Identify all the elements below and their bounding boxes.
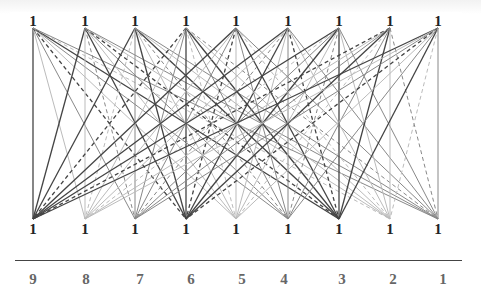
axis-line	[15, 260, 462, 261]
top-node-label: 1	[29, 14, 37, 29]
bottom-node-label: 1	[131, 222, 139, 237]
axis-tick-label: 7	[136, 272, 144, 287]
top-node-label: 1	[335, 14, 343, 29]
bottom-node-label: 1	[81, 222, 89, 237]
bottom-node-label: 1	[335, 222, 343, 237]
top-node-label: 1	[81, 14, 89, 29]
bottom-node-label: 1	[29, 222, 37, 237]
axis-tick-label: 9	[29, 272, 37, 287]
top-node-label: 1	[434, 14, 442, 29]
axis-tick-label: 1	[439, 272, 447, 287]
connection-lines	[0, 0, 481, 304]
bottom-node-label: 1	[182, 222, 190, 237]
axis-tick-label: 8	[82, 272, 90, 287]
top-node-label: 1	[232, 14, 240, 29]
axis-tick-label: 2	[389, 272, 397, 287]
bottom-node-label: 1	[434, 222, 442, 237]
top-node-label: 1	[182, 14, 190, 29]
axis-tick-label: 5	[238, 272, 246, 287]
axis-tick-label: 6	[187, 272, 195, 287]
axis-tick-label: 3	[338, 272, 346, 287]
top-node-label: 1	[284, 14, 292, 29]
bottom-node-label: 1	[232, 222, 240, 237]
bottom-node-label: 1	[386, 222, 394, 237]
top-node-label: 1	[386, 14, 394, 29]
axis-tick-label: 4	[280, 272, 288, 287]
top-node-label: 1	[131, 14, 139, 29]
bottom-node-label: 1	[284, 222, 292, 237]
